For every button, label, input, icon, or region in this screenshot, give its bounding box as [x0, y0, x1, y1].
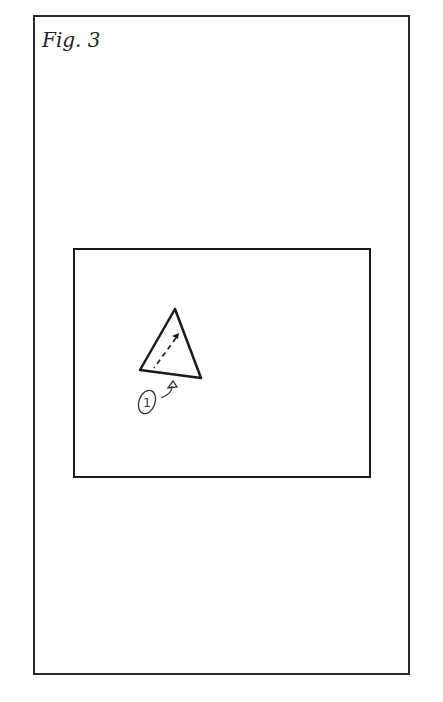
callout-marker: 1: [135, 381, 177, 416]
callout-number: 1: [143, 396, 151, 410]
triangle-icon: [140, 309, 201, 378]
sketch-layer: 1: [0, 0, 443, 702]
